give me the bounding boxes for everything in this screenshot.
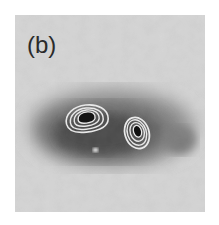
bright-marker [93,148,98,152]
panel-label: (b) [27,31,56,59]
